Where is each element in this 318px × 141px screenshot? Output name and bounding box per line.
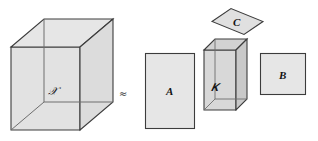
rect-b-label: B	[278, 69, 286, 81]
cube-x: 𝒳	[11, 19, 113, 130]
approx-equal-symbol: ≈	[119, 88, 127, 99]
figure-canvas: 𝒳 ≈ A 𝑲 B	[0, 0, 318, 141]
box-g-front-face	[204, 50, 236, 110]
diamond-c: C	[212, 9, 263, 35]
diamond-c-label: C	[233, 16, 241, 28]
rect-b: B	[261, 54, 306, 95]
rect-a-label: A	[165, 85, 173, 97]
rect-a: A	[146, 54, 195, 129]
cube-x-front-face	[11, 47, 80, 130]
tensor-decomposition-figure: 𝒳 ≈ A 𝑲 B	[0, 0, 318, 141]
box-g: 𝑲	[204, 39, 247, 110]
